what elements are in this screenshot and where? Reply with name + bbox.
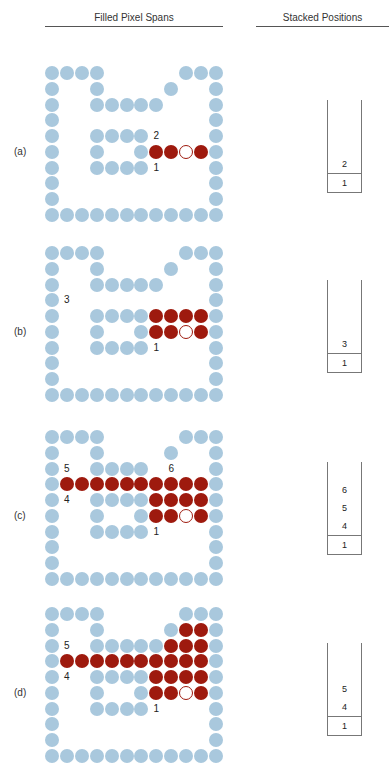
position-marker: 1 (149, 341, 163, 355)
boundary-pixel (120, 278, 134, 292)
boundary-pixel (90, 161, 104, 175)
boundary-pixel (120, 749, 134, 763)
boundary-pixel (149, 388, 163, 402)
stack-container: 31 (327, 280, 362, 373)
boundary-pixel (209, 129, 223, 143)
filled-pixel (120, 477, 134, 491)
boundary-pixel (179, 208, 193, 222)
filled-pixel (179, 623, 193, 637)
boundary-pixel (120, 208, 134, 222)
position-marker: 1 (149, 702, 163, 716)
boundary-pixel (45, 686, 59, 700)
boundary-pixel (45, 161, 59, 175)
boundary-pixel (45, 446, 59, 460)
boundary-pixel (90, 525, 104, 539)
boundary-pixel (134, 702, 148, 716)
boundary-pixel (90, 278, 104, 292)
stack-item: 5 (328, 502, 361, 514)
boundary-pixel (105, 749, 119, 763)
boundary-pixel (105, 341, 119, 355)
boundary-pixel (105, 572, 119, 586)
boundary-pixel (134, 749, 148, 763)
boundary-pixel (209, 145, 223, 159)
boundary-pixel (134, 509, 148, 523)
panel-label: (b) (14, 326, 26, 337)
filled-pixel (120, 654, 134, 668)
boundary-pixel (120, 462, 134, 476)
filled-pixel (194, 145, 208, 159)
filled-pixel (194, 654, 208, 668)
position-marker: 4 (60, 670, 74, 684)
boundary-pixel (209, 176, 223, 190)
boundary-pixel (179, 388, 193, 402)
boundary-pixel (209, 82, 223, 96)
boundary-pixel (90, 493, 104, 507)
boundary-pixel (149, 639, 163, 653)
position-marker: 1 (149, 525, 163, 539)
boundary-pixel (45, 129, 59, 143)
boundary-pixel (75, 572, 89, 586)
boundary-pixel (149, 749, 163, 763)
boundary-pixel (90, 509, 104, 523)
boundary-pixel (60, 388, 74, 402)
boundary-pixel (179, 430, 193, 444)
boundary-pixel (45, 607, 59, 621)
boundary-pixel (45, 113, 59, 127)
boundary-pixel (45, 145, 59, 159)
filled-pixel (149, 145, 163, 159)
boundary-pixel (105, 702, 119, 716)
boundary-pixel (90, 246, 104, 260)
stack-container: 6541 (327, 462, 362, 555)
header-rule-left (45, 26, 223, 27)
boundary-pixel (120, 572, 134, 586)
filled-pixel (164, 670, 178, 684)
filled-pixel (149, 325, 163, 339)
boundary-pixel (134, 670, 148, 684)
boundary-pixel (134, 145, 148, 159)
stack-item: 6 (328, 484, 361, 496)
boundary-pixel (105, 278, 119, 292)
boundary-pixel (90, 749, 104, 763)
filled-pixel (149, 309, 163, 323)
boundary-pixel (90, 66, 104, 80)
boundary-pixel (60, 430, 74, 444)
boundary-pixel (209, 702, 223, 716)
boundary-pixel (164, 572, 178, 586)
stack-container: 541 (327, 643, 362, 736)
boundary-pixel (45, 262, 59, 276)
boundary-pixel (209, 66, 223, 80)
filled-pixel (194, 325, 208, 339)
boundary-pixel (209, 309, 223, 323)
seed-pixel (179, 325, 193, 339)
seed-pixel (179, 686, 193, 700)
filled-pixel (60, 477, 74, 491)
boundary-pixel (105, 462, 119, 476)
boundary-pixel (45, 702, 59, 716)
boundary-pixel (75, 388, 89, 402)
boundary-pixel (209, 733, 223, 747)
boundary-pixel (209, 192, 223, 206)
boundary-pixel (209, 325, 223, 339)
boundary-pixel (149, 208, 163, 222)
boundary-pixel (149, 572, 163, 586)
boundary-pixel (45, 278, 59, 292)
boundary-pixel (90, 208, 104, 222)
filled-pixel (194, 509, 208, 523)
filled-pixel (149, 654, 163, 668)
boundary-pixel (45, 477, 59, 491)
filled-pixel (179, 670, 193, 684)
boundary-pixel (45, 749, 59, 763)
filled-pixel (164, 477, 178, 491)
boundary-pixel (45, 462, 59, 476)
filled-pixel (164, 325, 178, 339)
boundary-pixel (120, 341, 134, 355)
boundary-pixel (120, 129, 134, 143)
filled-pixel (194, 623, 208, 637)
boundary-pixel (45, 208, 59, 222)
boundary-pixel (45, 623, 59, 637)
boundary-pixel (209, 161, 223, 175)
filled-pixel (90, 477, 104, 491)
boundary-pixel (209, 686, 223, 700)
boundary-pixel (179, 66, 193, 80)
boundary-pixel (60, 572, 74, 586)
